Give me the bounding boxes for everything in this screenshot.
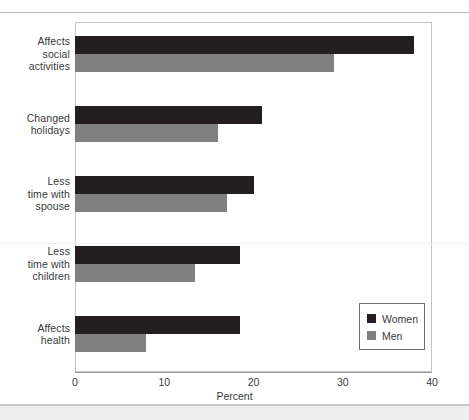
legend-swatch-men-icon [367,331,376,340]
category-label-2: Changedholidays [0,112,70,137]
legend-entry-women: Women [367,310,424,327]
legend-swatch-women-icon [367,314,376,323]
category-label-line: social [0,48,70,61]
category-label-5: Affectshealth [0,322,70,347]
bar-men-5 [75,334,146,352]
horizontal-bar-chart: AffectssocialactivitiesChangedholidaysLe… [0,0,469,404]
category-label-line: activities [0,60,70,73]
legend-label-women: Women [382,313,418,325]
category-label-4: Lesstime withchildren [0,245,70,283]
bar-men-2 [75,124,218,142]
category-label-line: Changed [0,112,70,125]
page-canvas: AffectssocialactivitiesChangedholidaysLe… [0,0,469,420]
legend-entry-men: Men [367,327,424,344]
bottom-page-band [0,406,469,420]
bar-women-3 [75,176,254,194]
x-axis-title: Percent [0,390,469,402]
scan-seam-artifact [0,243,469,244]
x-tick-20: 20 [248,376,260,388]
bar-men-4 [75,264,195,282]
category-label-line: children [0,270,70,283]
category-label-line: Affects [0,35,70,48]
x-axis-line [75,372,432,373]
bar-group-1 [75,22,432,92]
category-label-line: holidays [0,124,70,137]
bar-women-1 [75,36,414,54]
category-label-line: spouse [0,200,70,213]
legend-label-men: Men [382,330,402,342]
x-tick-0: 0 [72,376,78,388]
category-label-3: Lesstime withspouse [0,175,70,213]
bar-men-3 [75,194,227,212]
category-label-line: time with [0,258,70,271]
category-label-line: Affects [0,322,70,335]
category-label-line: Less [0,175,70,188]
bar-group-3 [75,162,432,232]
bar-women-2 [75,106,262,124]
category-label-line: time with [0,188,70,201]
category-label-1: Affectssocialactivities [0,35,70,73]
x-tick-40: 40 [426,376,438,388]
chart-legend: Women Men [359,303,425,350]
category-label-line: Less [0,245,70,258]
x-tick-10: 10 [158,376,170,388]
bar-group-2 [75,92,432,162]
bar-women-4 [75,246,240,264]
category-axis-labels: AffectssocialactivitiesChangedholidaysLe… [0,22,70,372]
bar-men-1 [75,54,334,72]
bar-women-5 [75,316,240,334]
x-tick-30: 30 [337,376,349,388]
category-label-line: health [0,334,70,347]
